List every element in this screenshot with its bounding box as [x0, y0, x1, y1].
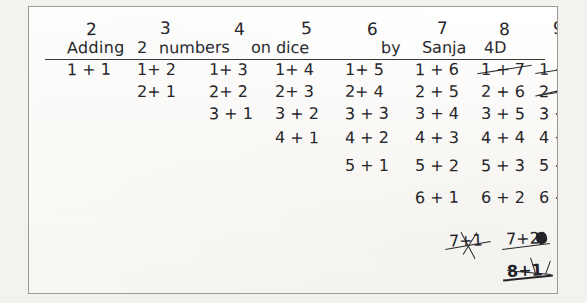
sum-cell-9-2+7: 2 + 7 [539, 84, 558, 101]
sum-cell-7-3+4: 3 + 4 [415, 106, 459, 122]
sum-cell-4-1+3: 1+ 3 [209, 62, 248, 78]
sum-cell-6-2+4: 2+ 4 [345, 84, 384, 100]
sum-cell-7-6+1: 6 + 1 [415, 190, 459, 207]
sum-cell-5-3+2: 3 + 2 [275, 106, 319, 122]
sum-cell-5-1+4: 1+ 4 [275, 62, 314, 78]
sum-cell-3-2+1: 2+ 1 [137, 84, 176, 100]
sum-cell-9-6+3: 6 + 3 [539, 190, 558, 207]
sum-cell-8-4+4: 4 + 4 [481, 130, 525, 147]
sum-cell-5-2+3: 2+ 3 [275, 84, 314, 100]
sum-cell-8-1+7: 1 + 7 [481, 62, 525, 78]
sum-cell-4-2+2: 2+ 2 [209, 84, 248, 100]
sum-cell-6-4+2: 4 + 2 [345, 130, 389, 146]
sum-cell-9-1+8: 1 + 8 [539, 62, 558, 79]
sum-cell-3-1+2: 1+ 2 [137, 62, 176, 78]
sum-cell-7-1+6: 1 + 6 [415, 62, 459, 79]
sum-cell-9-4+5: 4 + 5 [539, 130, 558, 146]
sum-cell-7-4+3: 4 + 3 [415, 130, 459, 146]
sum-cell-2-1+1: 1 + 1 [67, 62, 111, 79]
sum-cell-7-2+5: 2 + 5 [415, 84, 459, 100]
sum-cell-8-6+2: 6 + 2 [481, 190, 525, 206]
sum-cell-9-3+6: 3 + 6 [539, 106, 558, 122]
dice-sum-grid: 1 + 11+ 22+ 11+ 32+ 23 + 11+ 42+ 33 + 24… [29, 7, 557, 293]
sum-cell-9-5+4: 5 + 4 [539, 158, 558, 174]
sum-cell-7-5+2: 5 + 2 [415, 158, 459, 175]
sum-cell-4-3+1: 3 + 1 [209, 106, 253, 122]
sum-cell-6-1+5: 1+ 5 [345, 62, 384, 78]
sum-cell-6-3+3: 3 + 3 [345, 106, 389, 123]
sum-cell-5-4+1: 4 + 1 [275, 130, 319, 147]
sum-cell-8-3+5: 3 + 5 [481, 106, 525, 123]
sum-cell-8-5+3: 5 + 3 [481, 158, 525, 174]
worksheet-paper: 23456789 Adding2numberson dicebySanja4D … [28, 6, 558, 294]
sum-cell-6-5+1: 5 + 1 [345, 158, 389, 174]
sum-cell-8-2+6: 2 + 6 [481, 84, 525, 100]
